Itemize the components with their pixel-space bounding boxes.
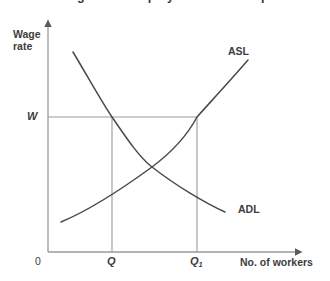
y-tick-label-w: W — [27, 110, 37, 123]
chart-canvas — [0, 0, 330, 281]
asl-curve-label: ASL — [228, 45, 249, 57]
chart-figure: Minimum wages and employment in a compet… — [0, 0, 330, 281]
x-tick-label-q-text: Q — [107, 255, 116, 267]
origin-label: 0 — [35, 255, 41, 267]
y-axis-title-line2: rate — [13, 40, 32, 52]
x-tick-label-q: Q — [107, 255, 116, 268]
adl-curve-label: ADL — [238, 203, 260, 215]
y-axis-title-line1: Wage — [13, 28, 41, 40]
x-tick-label-q1-text: Q — [190, 255, 199, 267]
x-tick-label-q1-subscript: 1 — [199, 260, 203, 269]
x-axis-title: No. of workers — [240, 256, 313, 268]
adl-curve — [73, 52, 225, 212]
y-axis-title: Wage rate — [13, 28, 41, 53]
x-tick-label-q1: Q1 — [190, 255, 203, 268]
asl-curve — [61, 60, 248, 222]
